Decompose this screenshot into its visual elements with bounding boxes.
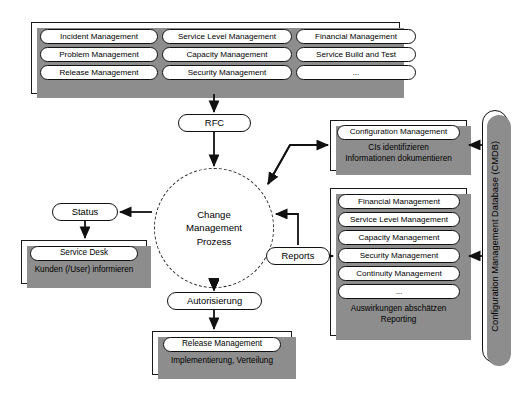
service-desk-chip[interactable]: Service Desk [30,246,138,261]
change-management-process-circle: Change Management Prozess [154,168,274,288]
process-line-3: Prozess [186,235,242,248]
cmdb-store: Configuration Management Database (CMDB) [482,110,508,363]
impact-assessment-panel: Financial Management Service Level Manag… [330,188,467,336]
process-chip-incident-management[interactable]: Incident Management [40,29,158,44]
impact-chip-capacity-management[interactable]: Capacity Management [338,230,460,245]
configuration-management-chip-label: Configuration Management [350,128,448,136]
status-label: Status [72,207,99,217]
impact-note-line-1: Auswirkungen abschätzen [331,304,466,315]
itil-processes-panel: Incident Management Problem Management R… [31,22,400,94]
cm-note-line-2: Informationen dokumentieren [331,154,466,165]
release-management-chip-label: Release Management [182,340,262,349]
wire-reports-to-process [276,214,298,245]
process-chip-capacity-management[interactable]: Capacity Management [162,47,292,62]
impact-chip-more[interactable]: ... [338,284,460,299]
diagram-canvas: Incident Management Problem Management R… [0,0,517,397]
service-desk-chip-label: Service Desk [60,249,108,258]
configuration-management-note: CIs identifizieren Informationen dokumen… [331,143,466,164]
process-chip-problem-management[interactable]: Problem Management [40,47,158,62]
process-chip-service-build-and-test[interactable]: Service Build and Test [296,47,416,62]
release-management-chip[interactable]: Release Management [163,337,281,352]
service-desk-panel: Service Desk Kunden (/User) informieren [21,240,147,284]
process-chip-service-level-management[interactable]: Service Level Management [162,29,292,44]
impact-note: Auswirkungen abschätzen Reporting [331,304,466,325]
configuration-management-chip[interactable]: Configuration Management [337,125,460,140]
authorization-label: Autorisierung [187,296,242,306]
reports-node[interactable]: Reports [266,247,330,265]
process-chip-security-management[interactable]: Security Management [162,65,292,80]
itil-column-1: Incident Management Problem Management R… [40,29,158,83]
impact-chip-service-level-management[interactable]: Service Level Management [338,212,460,227]
cmdb-label: Configuration Management Database (CMDB) [490,141,500,332]
process-line-1: Change [186,208,242,221]
rfc-node[interactable]: RFC [178,114,251,132]
service-desk-note: Kunden (/User) informieren [22,265,146,276]
impact-chip-security-management[interactable]: Security Management [338,248,460,263]
process-chip-financial-management[interactable]: Financial Management [296,29,416,44]
release-management-note: Implementierung, Verteilung [153,356,291,367]
authorization-node[interactable]: Autorisierung [167,292,262,310]
status-node[interactable]: Status [52,203,118,221]
impact-chip-list: Financial Management Service Level Manag… [338,194,460,302]
reports-label: Reports [282,251,315,261]
impact-note-line-2: Reporting [331,315,466,326]
wire-process-to-configuration-management [268,145,328,184]
impact-chip-financial-management[interactable]: Financial Management [338,194,460,209]
itil-column-3: Financial Management Service Build and T… [296,29,416,83]
configuration-management-panel: Configuration Management CIs identifizie… [330,120,467,171]
process-chip-release-management[interactable]: Release Management [40,65,158,80]
itil-column-2: Service Level Management Capacity Manage… [162,29,292,83]
process-chip-more[interactable]: ... [296,65,416,80]
impact-chip-continuity-management[interactable]: Continuity Management [338,266,460,281]
process-circle-label: Change Management Prozess [186,208,242,248]
process-line-2: Management [186,221,242,234]
release-management-panel: Release Management Implementierung, Vert… [152,331,292,375]
wire-configuration-management-to-process [268,145,290,184]
cm-note-line-1: CIs identifizieren [331,143,466,154]
rfc-label: RFC [205,118,224,128]
